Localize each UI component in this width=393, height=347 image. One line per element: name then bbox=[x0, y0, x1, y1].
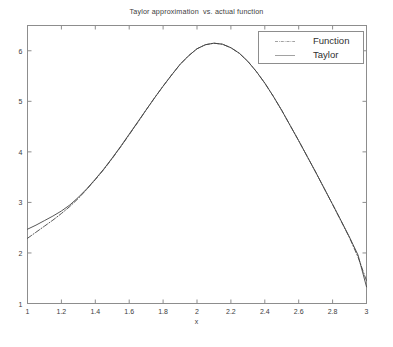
legend[interactable]: Function Taylor bbox=[258, 31, 364, 64]
x-tick-label: 3 bbox=[365, 308, 369, 315]
legend-label-taylor: Taylor bbox=[313, 48, 338, 62]
legend-label-function: Function bbox=[313, 34, 349, 48]
x-tick-label: 2.4 bbox=[260, 308, 270, 315]
legend-entry-taylor: Taylor bbox=[259, 48, 363, 63]
x-tick-label: 2.6 bbox=[294, 308, 304, 315]
legend-sample-dashdot-icon bbox=[265, 41, 305, 42]
series-line-taylor bbox=[28, 43, 367, 287]
y-tick-label: 1 bbox=[9, 300, 23, 307]
x-axis-label: x bbox=[0, 318, 393, 325]
y-tick-label: 2 bbox=[9, 249, 23, 256]
y-tick-label: 6 bbox=[9, 47, 23, 54]
legend-entry-function: Function bbox=[259, 34, 363, 49]
series-line-function bbox=[28, 43, 367, 281]
x-tick-label: 2 bbox=[195, 308, 199, 315]
y-tick-label: 5 bbox=[9, 98, 23, 105]
y-tick-label: 4 bbox=[9, 148, 23, 155]
legend-sample-solid-icon bbox=[265, 55, 305, 56]
x-tick-label: 2.8 bbox=[328, 308, 338, 315]
x-tick-label: 2.2 bbox=[226, 308, 236, 315]
axes-box bbox=[28, 26, 367, 304]
y-tick-label: 3 bbox=[9, 199, 23, 206]
x-tick-label: 1 bbox=[26, 308, 30, 315]
x-tick-label: 1.6 bbox=[124, 308, 134, 315]
x-tick-label: 1.8 bbox=[158, 308, 168, 315]
x-tick-label: 1.2 bbox=[57, 308, 67, 315]
figure-canvas: Taylor approximation vs. actual function… bbox=[0, 0, 393, 347]
x-tick-label: 1.4 bbox=[90, 308, 100, 315]
